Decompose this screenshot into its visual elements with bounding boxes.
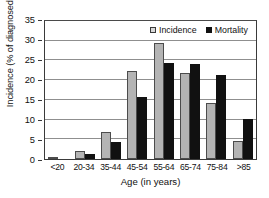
y-axis-tick-mark (38, 80, 42, 81)
y-axis-tick-labels: 05101520253035 (0, 20, 42, 160)
y-axis-tick-label: 20 (1, 76, 35, 85)
bar-chart-figure: Incidence (% of diagnosed cases) 0510152… (0, 0, 269, 198)
x-axis-tick-label: >85 (230, 162, 257, 172)
y-axis-tick-mark (38, 160, 42, 161)
x-axis-tick-label: 35-44 (97, 162, 124, 172)
legend-label: Mortality (215, 25, 248, 35)
bar-mortality (137, 97, 147, 159)
x-axis-tick-labels: <2020-3435-4445-5455-6465-7475-84>85 (44, 162, 257, 172)
legend-entry-incidence: Incidence (150, 25, 197, 35)
bar-incidence (180, 73, 190, 159)
bar-incidence (233, 141, 243, 159)
bar-mortality (164, 63, 174, 159)
mortality-swatch-icon (206, 27, 212, 33)
bar-group (124, 21, 150, 159)
bar-incidence (127, 71, 137, 159)
bar-incidence (101, 132, 111, 159)
bar-mortality (243, 119, 253, 159)
y-axis-tick-mark (38, 120, 42, 121)
y-axis-tick-mark (38, 20, 42, 21)
x-axis-tick-label: 65-74 (177, 162, 204, 172)
x-axis-tick-label: 75-84 (204, 162, 231, 172)
bar-group (98, 21, 124, 159)
y-axis-tick-mark (38, 40, 42, 41)
y-axis-tick-mark (38, 60, 42, 61)
bar-mortality (216, 75, 226, 159)
y-axis-tick-mark (38, 100, 42, 101)
chart-legend: IncidenceMortality (150, 25, 248, 35)
x-axis-tick-label: 55-64 (151, 162, 178, 172)
plot-area (44, 20, 257, 160)
bar-mortality (190, 64, 200, 159)
bar-incidence (75, 151, 85, 159)
bar-group (203, 21, 229, 159)
bar-group (71, 21, 97, 159)
x-axis-tick-label: <20 (44, 162, 71, 172)
bar-group (45, 21, 71, 159)
bar-mortality (111, 142, 121, 159)
y-axis-tick-label: 15 (1, 96, 35, 105)
bar-incidence (48, 157, 58, 159)
bar-incidence (154, 43, 164, 159)
legend-entry-mortality: Mortality (206, 25, 248, 35)
x-axis-title: Age (in years) (44, 176, 257, 187)
bar-group (230, 21, 256, 159)
y-axis-tick-label: 5 (1, 136, 35, 145)
bar-incidence (206, 103, 216, 159)
bar-mortality (85, 154, 95, 159)
x-axis-tick-label: 45-54 (124, 162, 151, 172)
y-axis-tick-label: 35 (1, 16, 35, 25)
legend-label: Incidence (159, 25, 197, 35)
y-axis-tick-label: 25 (1, 56, 35, 65)
bar-group (177, 21, 203, 159)
bar-group (151, 21, 177, 159)
bars-layer (45, 21, 256, 159)
x-axis-tick-label: 20-34 (71, 162, 98, 172)
y-axis-tick-label: 30 (1, 36, 35, 45)
y-axis-tick-label: 0 (1, 156, 35, 165)
y-axis-tick-label: 10 (1, 116, 35, 125)
incidence-swatch-icon (150, 27, 156, 33)
y-axis-tick-mark (38, 140, 42, 141)
